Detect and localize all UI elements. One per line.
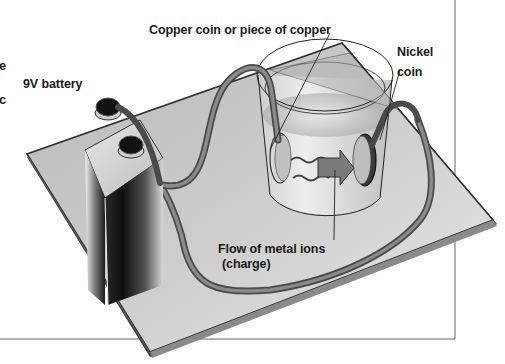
cut-off-text-fragment: e [0,58,6,73]
battery-label: 9V battery [23,75,82,93]
flow-label-line2: (charge) [218,257,325,272]
nickel-coin-label: Nickel coin [397,42,433,82]
flow-label-line1: Flow of metal ions [218,242,325,256]
diagram-canvas: e c 9V battery Copper coin or piece of c… [0,0,505,364]
nickel-label-line1: Nickel [397,45,433,59]
nickel-label-line2: coin [397,65,422,79]
ion-flow-label: Flow of metal ions (charge) [218,242,325,272]
cut-off-text-fragment: c [0,92,6,107]
copper-coin-label: Copper coin or piece of copper [149,21,331,39]
